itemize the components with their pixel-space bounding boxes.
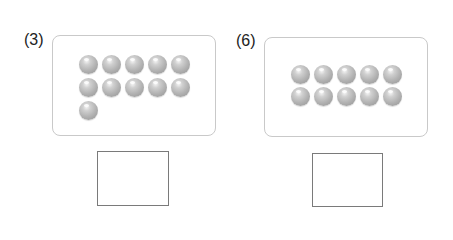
ball-icon [291, 87, 310, 106]
ball-icon [360, 87, 379, 106]
ball-icon [360, 65, 379, 84]
ball-icon [337, 65, 356, 84]
ball-icon [291, 65, 310, 84]
ball-icon [314, 87, 333, 106]
ball-icon [79, 55, 98, 74]
ball-icon [337, 87, 356, 106]
ball-icon [314, 65, 333, 84]
ball-icon [171, 55, 190, 74]
ball-icon [171, 78, 190, 97]
problem-label: (3) [24, 32, 44, 48]
ball-icon [125, 78, 144, 97]
problem-label: (6) [236, 33, 256, 49]
ball-icon [79, 101, 98, 120]
answer-box[interactable] [97, 151, 169, 206]
ball-icon [125, 55, 144, 74]
answer-box[interactable] [312, 153, 383, 207]
ball-icon [102, 78, 121, 97]
ball-icon [148, 78, 167, 97]
ball-icon [148, 55, 167, 74]
ball-icon [383, 65, 402, 84]
ball-icon [383, 87, 402, 106]
ball-icon [79, 78, 98, 97]
ball-icon [102, 55, 121, 74]
